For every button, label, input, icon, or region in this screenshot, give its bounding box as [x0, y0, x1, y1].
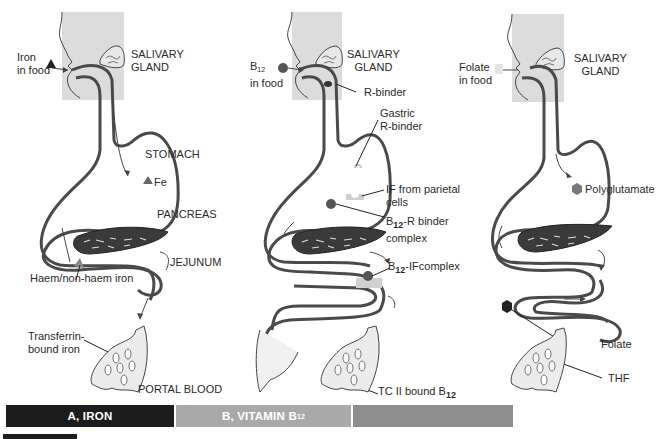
- gastric-r-binder-marker-icon: [354, 164, 362, 168]
- label-b12-in-food: B12 in food: [250, 60, 283, 89]
- figure-label-tab: [3, 434, 77, 439]
- caption-text: A, IRON: [68, 410, 113, 422]
- polyglutamate-hexagon-icon: [572, 183, 582, 195]
- subscript: 12: [395, 265, 405, 275]
- label-pancreas: PANCREAS: [157, 208, 217, 221]
- label-salivary-gland: SALIVARY GLAND: [347, 48, 400, 73]
- if-marker-icon: [346, 194, 364, 200]
- label-stomach: STOMACH: [145, 148, 200, 161]
- label-line: GLAND: [131, 61, 169, 73]
- label-line: Iron: [17, 51, 36, 63]
- label-iron-in-food: Iron in food: [17, 51, 50, 76]
- b12-if-complex-icon: [363, 271, 373, 281]
- label-salivary-gland: SALIVARY GLAND: [131, 48, 184, 73]
- label-line: SALIVARY: [347, 48, 400, 60]
- panel-vitamin-b12: B12 in food SALIVARY GLAND R-binder Gast…: [220, 0, 440, 400]
- subscript: 12: [257, 66, 265, 73]
- label-polyglutamate: Polyglutamate: [585, 183, 655, 196]
- caption-bar-folate: [353, 405, 513, 427]
- label-fe: Fe: [154, 176, 167, 189]
- folate-hexagon-icon: [502, 300, 512, 313]
- label-line: Gastric: [380, 107, 415, 119]
- panel-iron: Iron in food SALIVARY GLAND STOMACH Fe P…: [0, 0, 220, 400]
- fe-triangle-icon: [143, 176, 153, 184]
- caption-bar-vitamin-b12: B, VITAMIN B12: [176, 405, 351, 427]
- subscript: 12: [393, 220, 403, 230]
- label-line: SALIVARY: [574, 52, 627, 64]
- label-text: TC II bound B: [378, 385, 446, 397]
- label-line: Folate: [459, 61, 490, 73]
- label-line: SALIVARY: [131, 48, 184, 60]
- label-line: R-binder: [380, 120, 422, 132]
- caption-text: B, VITAMIN B: [222, 410, 297, 422]
- label-line: in food: [250, 77, 283, 89]
- label-line: GLAND: [581, 65, 619, 77]
- portal-blood-vessel-icon: [511, 328, 566, 392]
- label-line: complex: [386, 232, 427, 244]
- label-line: in food: [17, 64, 50, 76]
- label-thf: THF: [608, 372, 629, 385]
- label-gastric-r-binder: Gastric R-binder: [380, 107, 422, 132]
- label-r-binder: R-binder: [364, 86, 406, 99]
- label-haem-non-haem-iron: Haem/non-haem iron: [30, 272, 133, 285]
- caption-bar-iron: A, IRON: [6, 405, 174, 427]
- label-jejunum: JEJUNUM: [170, 256, 221, 269]
- b12-r-binder-complex-icon: [326, 199, 336, 209]
- label-transferrin-bound-iron: Transferrin- bound iron: [28, 330, 84, 355]
- panel-folate: Folate in food SALIVARY GLAND Polyglutam…: [440, 0, 660, 400]
- r-binder-marker-icon: [324, 81, 332, 87]
- label-folate: Folate: [601, 338, 632, 351]
- label-portal-blood: PORTAL BLOOD: [138, 383, 222, 396]
- portal-blood-vessel-icon: [321, 326, 379, 392]
- label-salivary-gland: SALIVARY GLAND: [574, 52, 627, 77]
- label-line: cells: [386, 196, 408, 208]
- label-folate-in-food: Folate in food: [459, 61, 492, 86]
- caption-subscript: 12: [297, 413, 305, 420]
- label-line: Transferrin-: [28, 330, 84, 342]
- label-line: in food: [459, 74, 492, 86]
- label-line: GLAND: [354, 61, 392, 73]
- folate-food-square-icon: [495, 64, 503, 74]
- label-line: bound iron: [28, 343, 80, 355]
